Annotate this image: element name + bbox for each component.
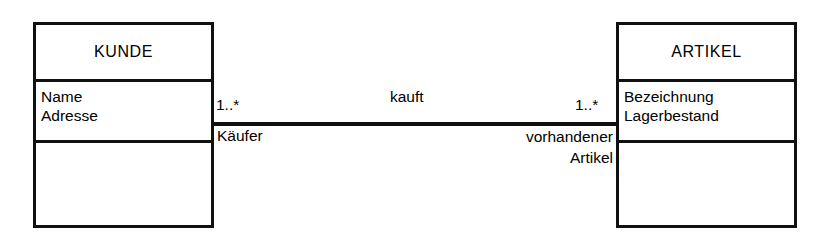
class-name-compartment-artikel: ARTIKEL <box>619 25 794 82</box>
association-name-label: kauft <box>390 87 424 106</box>
uml-class-diagram: KUNDE Name Adresse ARTIKEL Bezeichnung L… <box>0 0 831 248</box>
role-target-label: vorhandener Artikel <box>485 126 613 168</box>
class-attribute: Lagerbestand <box>624 106 794 125</box>
multiplicity-target-label: 1..* <box>575 95 598 114</box>
class-name-compartment-kunde: KUNDE <box>36 25 211 82</box>
class-attributes-compartment-artikel: Bezeichnung Lagerbestand <box>619 82 794 143</box>
class-title-artikel: ARTIKEL <box>671 44 742 60</box>
role-target-line-1: vorhandener <box>485 126 613 147</box>
class-title-kunde: KUNDE <box>94 44 153 60</box>
class-attributes-compartment-kunde: Name Adresse <box>36 82 211 143</box>
role-source-label: Käufer <box>217 126 263 145</box>
class-box-kunde[interactable]: KUNDE Name Adresse <box>33 22 214 228</box>
multiplicity-source-label: 1..* <box>216 95 239 114</box>
class-box-artikel[interactable]: ARTIKEL Bezeichnung Lagerbestand <box>616 22 797 228</box>
class-attribute: Bezeichnung <box>624 87 794 106</box>
class-attribute: Adresse <box>41 106 211 125</box>
class-operations-compartment-kunde <box>36 143 211 225</box>
role-target-line-2: Artikel <box>485 147 613 168</box>
class-attribute: Name <box>41 87 211 106</box>
class-operations-compartment-artikel <box>619 143 794 225</box>
